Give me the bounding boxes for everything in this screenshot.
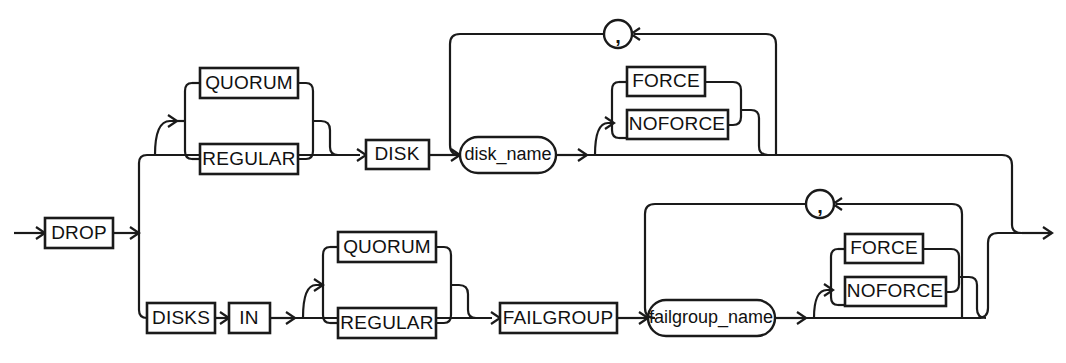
node-disk-name-label: disk_name xyxy=(464,144,551,165)
upper-branch-exit-merge xyxy=(1012,225,1022,233)
diskname-exit-connector xyxy=(556,149,1012,225)
node-in: IN xyxy=(229,303,270,333)
group-quorum-regular-lower: QUORUM REGULAR xyxy=(303,232,492,338)
exit-arrow xyxy=(1022,227,1052,239)
entry-arrow xyxy=(14,227,45,239)
node-force-upper-label: FORCE xyxy=(632,70,700,91)
node-failgroup: FAILGROUP xyxy=(500,303,617,333)
node-comma-lower-label: , xyxy=(817,195,823,217)
node-noforce-upper: NOFORCE xyxy=(627,110,728,139)
node-regular-lower-label: REGULAR xyxy=(340,312,433,333)
node-quorum-lower-label: QUORUM xyxy=(343,236,431,257)
node-regular-upper-label: REGULAR xyxy=(202,148,295,169)
node-force-lower: FORCE xyxy=(845,234,923,263)
node-regular-lower: REGULAR xyxy=(338,308,436,338)
node-comma-upper-label: , xyxy=(615,25,621,47)
group-force-noforce-lower: FORCE NOFORCE xyxy=(814,234,986,318)
node-noforce-upper-label: NOFORCE xyxy=(629,113,725,134)
node-drop: DROP xyxy=(45,218,113,248)
drop-to-split-connector xyxy=(113,227,139,239)
node-disk: DISK xyxy=(366,140,429,169)
node-quorum-upper-label: QUORUM xyxy=(205,72,293,93)
node-force-lower-label: FORCE xyxy=(850,237,918,258)
node-quorum-lower: QUORUM xyxy=(338,232,436,262)
node-failgroup-label: FAILGROUP xyxy=(503,307,614,328)
node-noforce-lower: NOFORCE xyxy=(845,277,946,306)
node-quorum-upper: QUORUM xyxy=(200,68,298,98)
failgroup-to-name-connector xyxy=(617,312,648,324)
node-noforce-lower-label: NOFORCE xyxy=(847,280,943,301)
node-disks: DISKS xyxy=(147,303,215,333)
disks-to-in-connector xyxy=(215,312,229,324)
node-disks-label: DISKS xyxy=(152,307,210,328)
arrow-into-failgroup xyxy=(491,312,500,324)
node-drop-label: DROP xyxy=(51,222,107,243)
node-disk-name: disk_name xyxy=(460,137,556,173)
node-in-label: IN xyxy=(239,307,258,328)
group-force-noforce-upper: FORCE NOFORCE xyxy=(595,67,768,155)
group-quorum-regular-upper: QUORUM REGULAR xyxy=(155,68,360,174)
railroad-diagram-canvas: DROP xyxy=(0,0,1066,363)
syntax-diagram-svg: DROP xyxy=(0,0,1066,363)
node-regular-upper: REGULAR xyxy=(200,144,298,174)
main-branch-spine xyxy=(139,155,360,318)
node-failgroup-name: failgroup_name xyxy=(648,300,775,336)
node-force-upper: FORCE xyxy=(627,67,705,96)
node-disk-label: DISK xyxy=(374,143,419,164)
node-failgroup-name-label: failgroup_name xyxy=(649,307,773,328)
